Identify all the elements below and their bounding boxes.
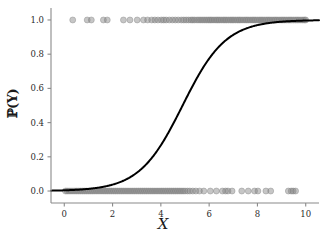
y-tick-label: 0.0 <box>8 186 44 196</box>
scatter-point <box>293 188 299 194</box>
scatter-point <box>120 17 126 23</box>
scatter-point <box>134 17 140 23</box>
axis-spines-layer <box>51 8 319 203</box>
scatter-point <box>88 17 94 23</box>
scatter-point <box>255 188 261 194</box>
scatter-point <box>104 17 110 23</box>
logistic-regression-figure: 0.00.20.40.60.81.0 0246810 X ℙ(Y) <box>0 0 326 241</box>
x-axis-label: X <box>0 215 326 233</box>
scatter-point <box>207 188 213 194</box>
scatter-point <box>213 188 219 194</box>
scatter-point <box>239 188 245 194</box>
y-axis-label: ℙ(Y) <box>5 54 20 154</box>
scatter-point <box>70 17 76 23</box>
scatter-point <box>201 188 207 194</box>
scatter-points-layer <box>62 17 308 194</box>
scatter-point <box>229 188 235 194</box>
y-axis-label-text: ℙ(Y) <box>5 89 20 118</box>
scatter-point <box>268 188 274 194</box>
y-tick-label: 1.0 <box>8 15 44 25</box>
logistic-curve <box>51 20 319 190</box>
plot-canvas <box>0 0 326 241</box>
scatter-point <box>245 188 251 194</box>
axis-ticks-layer <box>48 20 306 207</box>
scatter-point <box>127 17 133 23</box>
